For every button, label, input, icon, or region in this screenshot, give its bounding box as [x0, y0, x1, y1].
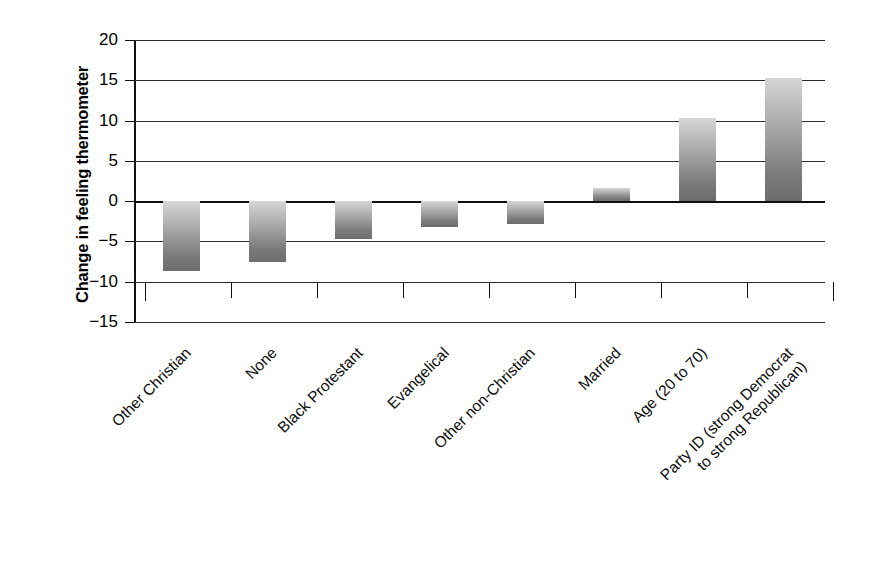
x-tick-mark — [403, 282, 404, 298]
gridline-0 — [135, 201, 825, 203]
bar — [593, 188, 630, 201]
x-tick-mark — [231, 282, 232, 298]
y-tick-mark — [125, 80, 135, 81]
y-tick-mark — [125, 121, 135, 122]
x-tick-mark — [489, 282, 490, 298]
bar — [163, 201, 200, 271]
x-axis-label: Party ID (strong Democrat to strong Repu… — [501, 344, 811, 581]
gridline-20 — [135, 40, 825, 41]
y-tick-label: −10 — [72, 273, 118, 290]
y-tick-label: 5 — [72, 152, 118, 169]
x-tick-mark — [317, 282, 318, 298]
y-tick-mark — [125, 322, 135, 323]
y-tick-label: 0 — [72, 192, 118, 209]
y-tick-label: 10 — [72, 112, 118, 129]
x-tick-mark — [145, 282, 146, 301]
bar — [765, 78, 802, 201]
x-tick-mark — [833, 282, 834, 301]
bar — [679, 118, 716, 201]
gridline-15 — [135, 80, 825, 81]
y-tick-label: −5 — [72, 232, 118, 249]
gridline-10 — [135, 121, 825, 122]
y-tick-mark — [125, 201, 135, 202]
gridline-neg5 — [135, 241, 825, 242]
gridline-neg10 — [135, 282, 825, 283]
y-tick-label: −15 — [72, 313, 118, 330]
y-tick-mark — [125, 40, 135, 41]
x-tick-mark — [747, 282, 748, 298]
x-tick-mark — [661, 282, 662, 298]
gridline-5 — [135, 161, 825, 162]
x-tick-mark — [575, 282, 576, 298]
y-tick-label: 20 — [72, 31, 118, 48]
gridline-neg15 — [135, 322, 825, 323]
y-tick-label: 15 — [72, 71, 118, 88]
plot-area: 20151050−5−10−15 — [135, 40, 825, 322]
bar — [421, 201, 458, 227]
bar — [507, 201, 544, 224]
y-axis-spine — [134, 40, 136, 322]
bar — [335, 201, 372, 239]
bar-chart-figure: Change in feeling thermometer 20151050−5… — [0, 0, 870, 581]
y-tick-mark — [125, 161, 135, 162]
y-tick-mark — [125, 282, 135, 283]
bar — [249, 201, 286, 262]
y-tick-mark — [125, 241, 135, 242]
